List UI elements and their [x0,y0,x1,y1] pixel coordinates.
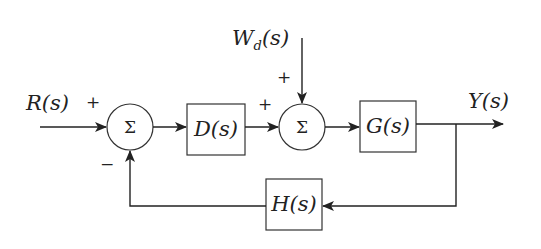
summing-junction-2: Σ [279,104,325,150]
block-diagram: R(s) + Σ − D(s) + Wd(s) + Σ G(s) Y(s) [0,0,541,249]
output-signal-y: Y(s) [416,89,509,124]
w-plus-sign: + [277,67,291,87]
r-plus-sign: + [86,92,100,112]
h-to-sum1-arrow [130,151,266,206]
g-label: G(s) [366,114,410,138]
feedback-minus-sign: − [100,154,114,174]
summing-junction-1: Σ − [100,104,153,174]
r-label: R(s) [25,91,69,115]
disturbance-signal-w: Wd(s) + [232,26,302,103]
y-label: Y(s) [468,89,509,113]
input-signal-r: R(s) + [25,91,106,127]
block-g: G(s) [360,101,416,152]
block-d: D(s) [187,104,245,155]
sum2-sigma: Σ [296,117,308,137]
d-label: D(s) [193,117,238,141]
sum1-sigma: Σ [124,117,136,137]
d-plus-sign: + [258,94,272,114]
h-label: H(s) [270,192,316,216]
block-h: H(s) [266,179,322,230]
w-label: Wd(s) [232,26,289,53]
